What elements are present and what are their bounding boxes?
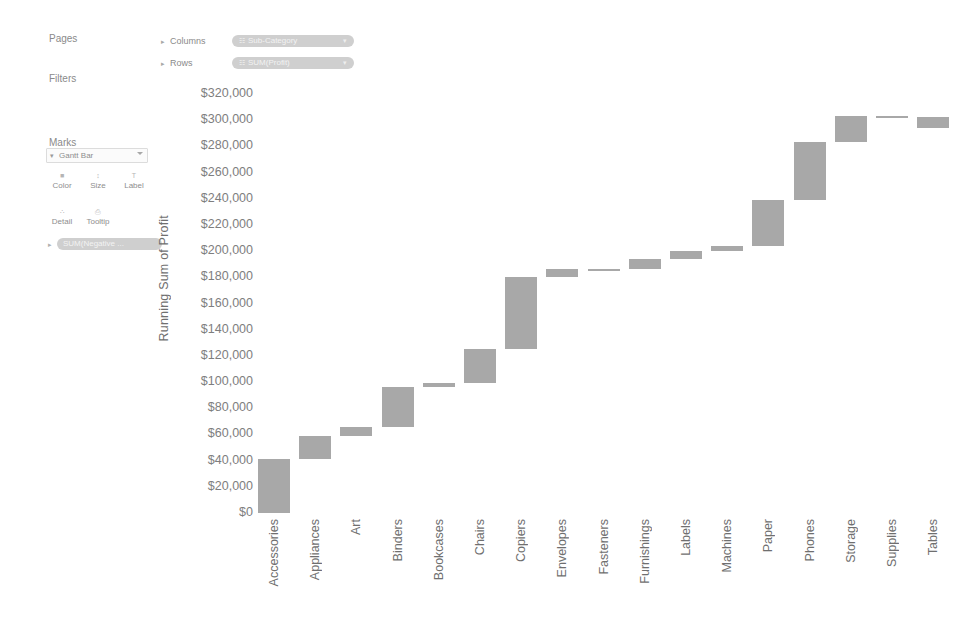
y-axis-tick: $0 [175, 506, 253, 519]
y-axis-tick: $220,000 [175, 218, 253, 231]
x-axis-tick-appliances: Appliances [308, 519, 322, 580]
bar-bookcases[interactable] [423, 383, 455, 387]
x-axis-tick-envelopes: Envelopes [555, 519, 569, 577]
x-axis-tick-paper: Paper [761, 519, 775, 552]
bar-machines[interactable] [711, 246, 743, 251]
bar-labels[interactable] [670, 251, 702, 259]
x-axis-tick-copiers: Copiers [514, 519, 528, 562]
x-axis-tick-furnishings: Furnishings [638, 519, 652, 584]
y-axis-tick: $60,000 [175, 427, 253, 440]
y-axis-tick: $280,000 [175, 139, 253, 152]
bar-furnishings[interactable] [629, 259, 661, 269]
bar-art[interactable] [340, 427, 372, 436]
y-axis-tick: $40,000 [175, 454, 253, 467]
x-axis-tick-chairs: Chairs [473, 519, 487, 555]
bar-envelopes[interactable] [546, 269, 578, 277]
y-axis-tick: $120,000 [175, 349, 253, 362]
y-axis-tick: $160,000 [175, 297, 253, 310]
bar-paper[interactable] [752, 200, 784, 246]
x-axis-tick-labels: Labels [679, 519, 693, 556]
x-axis-tick-binders: Binders [391, 519, 405, 561]
bar-accessories[interactable] [258, 459, 290, 513]
y-axis-tick: $180,000 [175, 270, 253, 283]
y-axis-tick: $200,000 [175, 244, 253, 257]
bar-phones[interactable] [794, 142, 826, 200]
x-axis-tick-tables: Tables [926, 519, 940, 555]
y-axis-tick: $100,000 [175, 375, 253, 388]
bar-storage[interactable] [835, 116, 867, 142]
x-axis-tick-machines: Machines [720, 519, 734, 573]
x-axis-tick-bookcases: Bookcases [432, 519, 446, 580]
y-axis-tick: $80,000 [175, 401, 253, 414]
y-axis-tick: $240,000 [175, 192, 253, 205]
bar-supplies[interactable] [876, 116, 908, 118]
y-axis-tick: $260,000 [175, 166, 253, 179]
bar-copiers[interactable] [505, 277, 537, 349]
y-axis-tick: $20,000 [175, 480, 253, 493]
y-axis-tick: $140,000 [175, 323, 253, 336]
waterfall-chart: Running Sum of Profit $320,000$300,000$2… [0, 0, 965, 624]
x-axis-tick-art: Art [349, 519, 363, 535]
y-axis-tick-labels: $320,000$300,000$280,000$260,000$240,000… [175, 0, 253, 624]
bar-chairs[interactable] [464, 349, 496, 383]
y-axis-tick: $320,000 [175, 87, 253, 100]
bar-binders[interactable] [382, 387, 414, 426]
x-axis-tick-phones: Phones [803, 519, 817, 561]
x-axis-tick-supplies: Supplies [885, 519, 899, 567]
y-axis-title: Running Sum of Profit [157, 215, 171, 341]
bar-appliances[interactable] [299, 436, 331, 460]
x-axis-tick-accessories: Accessories [267, 519, 281, 586]
x-axis-tick-storage: Storage [844, 519, 858, 563]
bar-fasteners[interactable] [588, 269, 620, 271]
bar-tables[interactable] [917, 117, 949, 128]
y-axis-tick: $300,000 [175, 113, 253, 126]
x-axis-tick-fasteners: Fasteners [597, 519, 611, 575]
plot-area: AccessoriesAppliancesArtBindersBookcases… [258, 0, 958, 624]
